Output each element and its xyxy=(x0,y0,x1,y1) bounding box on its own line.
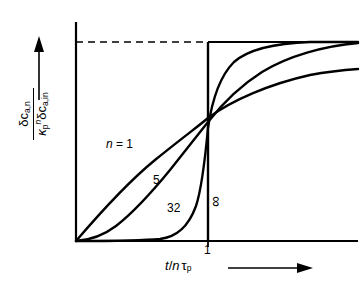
x-axis-label-n: n xyxy=(172,258,179,273)
x-tick-label-1: 1 xyxy=(204,243,211,257)
x-axis-arrow-icon xyxy=(228,263,313,273)
curve-label-n-1: n = 1 xyxy=(106,137,133,151)
curve-label-n-5: 5 xyxy=(153,173,160,187)
figure-container: δca,n κpnδca,in 1 t/nτp n = 1 5 32 ∞ xyxy=(0,0,364,293)
curve-label-n-infinity: ∞ xyxy=(206,196,223,207)
curve-label-n-32: 32 xyxy=(167,201,180,215)
y-axis-arrow-icon xyxy=(34,36,44,100)
curve-n-1 xyxy=(76,69,358,241)
x-axis-label-tau-sub: p xyxy=(187,263,192,273)
x-axis-label: t/nτp xyxy=(165,258,191,273)
plot-area xyxy=(0,0,364,293)
